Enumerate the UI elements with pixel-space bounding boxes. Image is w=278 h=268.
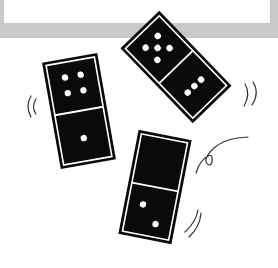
motion-line-right-1 — [244, 84, 248, 106]
domino-top-right — [120, 11, 231, 123]
motion-line-left-2 — [34, 99, 37, 114]
motion-line-left-1 — [28, 96, 31, 117]
dominoes-group — [42, 11, 231, 244]
motion-line-swirl — [196, 137, 248, 173]
motion-line-right-2 — [252, 82, 256, 105]
domino-bottom — [118, 130, 191, 244]
domino-left — [42, 53, 116, 169]
dominoes-illustration — [0, 0, 278, 268]
